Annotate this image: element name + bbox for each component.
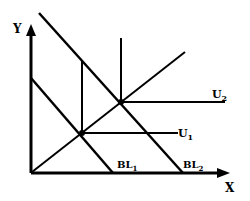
y-axis-arrow-icon xyxy=(26,24,36,36)
bl2-label: BL2 xyxy=(183,159,203,173)
u2-label: U2 xyxy=(212,88,227,103)
x-axis-arrow-icon xyxy=(217,168,230,178)
y-axis-label: Y xyxy=(12,22,22,36)
equilibrium-point-2 xyxy=(118,99,124,105)
bl1-label: BL1 xyxy=(117,159,137,173)
equilibrium-point-1 xyxy=(79,130,85,136)
u1-label: U1 xyxy=(178,127,193,142)
x-axis-label: X xyxy=(225,181,235,195)
income-expansion-ray xyxy=(32,52,185,172)
budget-line-1 xyxy=(31,78,113,173)
diagram-canvas: Y X U2 U1 BL1 BL2 xyxy=(0,0,250,201)
